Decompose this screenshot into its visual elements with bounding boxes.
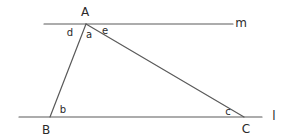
line-m-label: m bbox=[235, 16, 247, 30]
angle-b-label: b bbox=[60, 104, 66, 115]
vertex-a-label: A bbox=[81, 5, 90, 19]
side-ac bbox=[86, 24, 244, 117]
angle-c-label: c bbox=[225, 106, 231, 117]
vertex-c-label: C bbox=[242, 122, 250, 136]
line-l-label: l bbox=[272, 109, 275, 123]
angle-d-label: d bbox=[67, 27, 73, 38]
angle-e-label: e bbox=[102, 25, 108, 36]
geometry-diagram: m l A B C d a e b c bbox=[0, 0, 292, 138]
vertex-b-label: B bbox=[42, 123, 50, 137]
angle-a-label: a bbox=[86, 29, 92, 40]
